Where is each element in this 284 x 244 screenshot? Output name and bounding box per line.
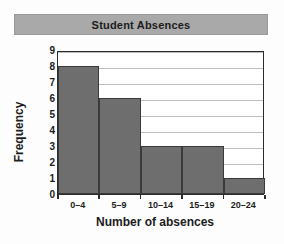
x-axis-tick: [264, 195, 266, 199]
y-axis-title: Frequency: [10, 60, 28, 204]
y-axis-tick-label: 1: [38, 174, 55, 184]
x-axis-tick-label: 5–9: [98, 200, 139, 211]
x-axis-tick: [181, 195, 183, 199]
x-axis-tick: [223, 195, 225, 199]
x-axis-tick-label: 10–14: [140, 200, 181, 211]
bar: [182, 146, 223, 194]
x-axis-tick-labels: 0–45–910–1415–1920–24: [57, 200, 264, 212]
y-axis-tick-label: 0: [38, 190, 55, 200]
bar: [141, 146, 182, 194]
plot-inner: [58, 52, 263, 194]
bar: [58, 66, 99, 194]
plot-area: [57, 51, 264, 195]
y-axis-tick-label: 2: [38, 158, 55, 168]
x-axis-tick: [140, 195, 142, 199]
x-axis-tick: [57, 195, 59, 199]
y-axis-tick-labels: 0123456789: [38, 51, 55, 195]
x-axis-tick-label: 15–19: [181, 200, 222, 211]
gridline: [58, 52, 263, 53]
y-axis-tick-label: 8: [38, 62, 55, 72]
bar: [99, 98, 140, 194]
chart-card: Student Absences Frequency 0123456789 0–…: [0, 0, 284, 244]
y-axis-tick-label: 7: [38, 78, 55, 88]
page-title: Student Absences: [92, 19, 191, 31]
x-axis-tick-label: 0–4: [57, 200, 98, 211]
y-axis-tick-label: 4: [38, 126, 55, 136]
y-axis-tick-label: 3: [38, 142, 55, 152]
chart-title-band: Student Absences: [14, 14, 268, 35]
y-axis-tick-label: 5: [38, 110, 55, 120]
y-axis-tick-label: 9: [38, 46, 55, 56]
y-axis-tick-label: 6: [38, 94, 55, 104]
x-axis-tick-label: 20–24: [223, 200, 264, 211]
x-axis-tick: [98, 195, 100, 199]
x-axis-title: Number of absences: [40, 215, 270, 229]
bar: [224, 178, 265, 194]
